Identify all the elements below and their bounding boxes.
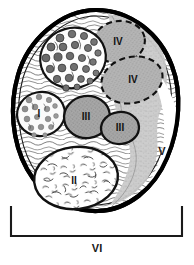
figure-canvas: IV IV [0, 0, 194, 265]
bracket-VI: VI [11, 207, 182, 254]
nerve-cross-section-figure: IV IV [0, 0, 194, 265]
label-VI: VI [92, 242, 102, 254]
label-V: V [158, 145, 166, 157]
